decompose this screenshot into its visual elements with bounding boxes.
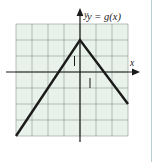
graph-svg: y = g(x) y x xyxy=(0,0,154,162)
graph-figure: y = g(x) y x xyxy=(0,0,154,162)
curve-label: y = g(x) xyxy=(86,11,121,23)
right-border-rule xyxy=(151,0,152,162)
x-axis-label: x xyxy=(129,58,135,68)
y-axis-arrow-icon xyxy=(77,8,84,16)
y-axis-label: y xyxy=(83,10,89,20)
x-axis-arrow-icon xyxy=(132,69,140,76)
